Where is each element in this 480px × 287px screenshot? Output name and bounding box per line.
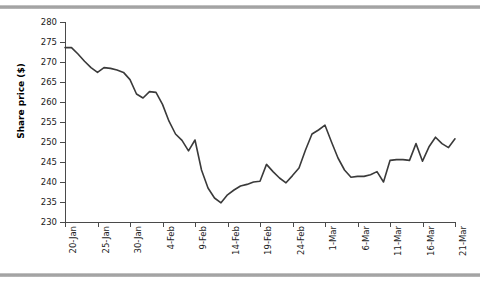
chart-page: Share price ($) 230235240245250255260265… xyxy=(0,0,480,287)
share-price-series-line xyxy=(65,48,455,203)
plot-area xyxy=(0,0,480,287)
share-price-line-chart: Share price ($) 230235240245250255260265… xyxy=(0,0,480,287)
